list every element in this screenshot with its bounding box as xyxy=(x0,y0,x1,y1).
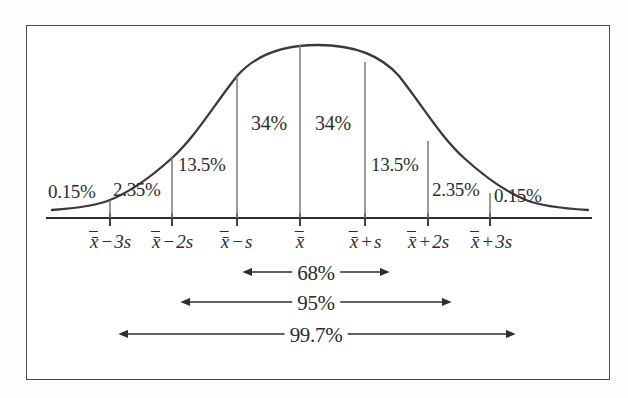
span-label-95: 95% xyxy=(292,291,340,316)
operator-symbol: − xyxy=(161,231,176,252)
operator-symbol: + xyxy=(417,231,432,252)
figure-page: 0.15% 2.35% 13.5% 34% 34% 13.5% 2.35% 0.… xyxy=(0,0,628,398)
band-label-minus1s-to-mean: 34% xyxy=(251,113,287,133)
band-label-minus2s-to-minus1s: 13.5% xyxy=(178,155,226,174)
axis-tick-label-minus-2s: x̄−2s xyxy=(151,232,193,251)
band-label-plus2s-to-plus3s: 2.35% xyxy=(432,180,480,199)
band-label-plus1s-to-plus2s: 13.5% xyxy=(371,155,419,174)
axis-tick-label-mean: x̄ xyxy=(295,232,305,251)
sd-term: 2s xyxy=(432,231,449,252)
sd-term: 2s xyxy=(176,231,193,252)
sd-term: 3s xyxy=(114,231,131,252)
x-bar-symbol: x̄ xyxy=(220,232,230,251)
band-label-left-tail: 0.15% xyxy=(48,182,96,201)
x-bar-symbol: x̄ xyxy=(295,232,305,251)
operator-symbol: + xyxy=(480,231,495,252)
x-bar-symbol: x̄ xyxy=(407,232,417,251)
axis-tick-label-plus-3s: x̄+3s xyxy=(470,232,512,251)
band-label-mean-to-plus1s: 34% xyxy=(315,113,351,133)
band-label-minus3s-to-minus2s: 2.35% xyxy=(113,180,161,199)
x-bar-symbol: x̄ xyxy=(470,232,480,251)
axis-tick-label-plus-2s: x̄+2s xyxy=(407,232,449,251)
band-label-right-tail: 0.15% xyxy=(494,186,542,205)
sd-term: s xyxy=(245,231,252,252)
axis-tick-label-minus-1s: x̄−s xyxy=(220,232,253,251)
operator-symbol: + xyxy=(359,231,374,252)
x-bar-symbol: x̄ xyxy=(349,232,359,251)
sd-term: s xyxy=(374,231,381,252)
operator-symbol: − xyxy=(230,231,245,252)
sd-term: 3s xyxy=(495,231,512,252)
axis-tick-label-minus-3s: x̄−3s xyxy=(89,232,131,251)
x-bar-symbol: x̄ xyxy=(89,232,99,251)
operator-symbol: − xyxy=(99,231,114,252)
span-label-99-7: 99.7% xyxy=(285,323,348,348)
span-label-68: 68% xyxy=(292,261,340,286)
axis-tick-label-plus-1s: x̄+s xyxy=(349,232,382,251)
x-bar-symbol: x̄ xyxy=(151,232,161,251)
